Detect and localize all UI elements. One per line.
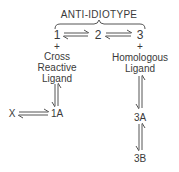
left-ligand-line-2: Reactive: [38, 62, 77, 73]
left-ligand-line-3: Ligand: [42, 73, 72, 84]
node-3a: 3A: [134, 112, 146, 123]
equilibrium-arrow-ligand-1a: [52, 83, 61, 107]
equilibrium-arrow-ligand-3a: [136, 75, 145, 109]
right-ligand-line-2: Ligand: [125, 63, 155, 74]
equilibrium-arrow-3a-3b: [136, 123, 145, 151]
node-2: 2: [95, 29, 102, 41]
right-ligand-line-1: Homologous: [112, 52, 168, 63]
diagram-title: ANTI-IDIOTYPE: [61, 9, 138, 20]
node-3: 3: [137, 29, 144, 41]
diagram-lines: [0, 0, 179, 172]
equilibrium-arrow-x-1a: [18, 109, 49, 118]
node-1: 1: [54, 29, 61, 41]
node-3b: 3B: [134, 153, 146, 164]
plus-right: +: [137, 41, 143, 52]
node-1a: 1A: [51, 108, 63, 119]
equilibrium-arrow-2-3: [105, 30, 132, 39]
left-ligand-line-1: Cross: [44, 51, 70, 62]
node-x: X: [9, 108, 16, 119]
equilibrium-arrow-1-2: [63, 30, 89, 39]
